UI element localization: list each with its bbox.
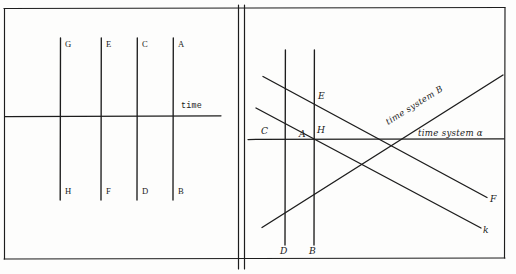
- left-label-top-0: G: [65, 39, 71, 49]
- right-panel: C A H E D B F k time system B time syste…: [248, 50, 504, 256]
- right-label-time-system-beta: time system B: [384, 84, 445, 127]
- left-time-axis-label: time: [181, 101, 202, 111]
- left-panel: G E C A H F D B time: [5, 38, 221, 200]
- frame-right-edge: [505, 8, 506, 259]
- right-label-b: B: [308, 245, 316, 256]
- right-label-e: E: [317, 90, 325, 101]
- right-label-h: H: [316, 124, 326, 135]
- right-label-c: C: [261, 125, 268, 136]
- left-label-top-1: E: [106, 39, 111, 49]
- left-label-bottom-1: F: [106, 186, 111, 196]
- right-diagonal-beta: [262, 75, 503, 228]
- right-label-d: D: [279, 245, 288, 256]
- right-label-time-system-alpha: time system α: [418, 128, 483, 138]
- right-label-k: k: [483, 224, 489, 235]
- right-label-a: A: [298, 128, 306, 139]
- left-label-bottom-3: B: [178, 186, 184, 196]
- frame-bottom-edge: [4, 258, 505, 259]
- left-label-bottom-0: H: [65, 186, 71, 196]
- left-label-top-3: A: [178, 39, 185, 49]
- diagram-canvas: G E C A H F D B time C: [0, 0, 516, 274]
- left-label-top-2: C: [142, 39, 148, 49]
- left-time-axis: [5, 116, 221, 117]
- diagram-page: G E C A H F D B time C: [0, 0, 516, 274]
- frame-top-edge: [4, 8, 505, 9]
- left-label-bottom-2: D: [142, 186, 148, 196]
- right-label-f: F: [489, 193, 497, 204]
- right-time-axis-alpha: [248, 139, 504, 140]
- panel-divider: [239, 5, 245, 269]
